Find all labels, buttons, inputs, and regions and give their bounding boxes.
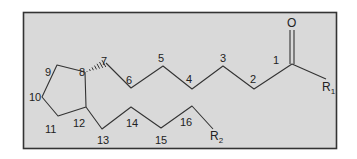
carbon-label-8: 8 [79, 66, 85, 78]
carbon-label-13: 13 [97, 134, 109, 146]
carbon-label-3: 3 [220, 52, 226, 64]
carbon-label-4: 4 [186, 73, 192, 85]
carbon-label-1: 1 [273, 54, 279, 66]
carbon-label-10: 10 [29, 91, 41, 103]
chemical-structure-diagram: O R1 R2 1 2 3 4 5 6 7 8 9 10 11 12 13 14… [0, 0, 357, 159]
carbon-label-2: 2 [250, 73, 256, 85]
carbon-label-7: 7 [101, 55, 107, 67]
carbon-label-12: 12 [73, 117, 85, 129]
carbon-label-16: 16 [180, 116, 192, 128]
oxygen-label: O [287, 16, 296, 30]
carbon-label-11: 11 [45, 123, 56, 135]
carbon-label-14: 14 [126, 117, 138, 129]
carbon-label-6: 6 [126, 74, 132, 86]
carbon-label-15: 15 [155, 134, 167, 146]
carbon-label-5: 5 [158, 52, 164, 64]
carbon-label-9: 9 [45, 66, 51, 78]
